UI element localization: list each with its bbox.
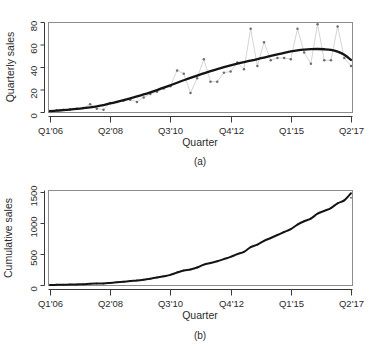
y-tick-label: 80: [28, 21, 39, 32]
data-point: [323, 59, 326, 62]
plot-frame-b: [49, 191, 353, 286]
y-tick-label: 0: [28, 286, 39, 291]
chart-b-svg: 050010001500 Cumulative sales Q1'06Q2'08…: [0, 173, 379, 346]
data-point: [102, 109, 105, 112]
data-point: [350, 65, 353, 68]
y-tick-label: 60: [28, 43, 39, 54]
y-tick-marks-b: [41, 193, 45, 286]
data-point: [276, 57, 279, 60]
y-tick-label: 1500: [28, 185, 39, 206]
x-tick-marks-b: [51, 290, 352, 296]
x-tick-labels-b: Q1'06Q2'08Q3'10Q4'12Q1'15Q2'17: [38, 298, 364, 309]
data-point: [223, 71, 226, 74]
data-point: [290, 58, 293, 61]
chart-b-x-axis: Q1'06Q2'08Q3'10Q4'12Q1'15Q2'17 Quarter: [38, 290, 364, 322]
data-point: [269, 59, 272, 62]
x-tick-label: Q3'10: [158, 298, 183, 309]
data-point: [89, 103, 92, 106]
data-point: [330, 59, 333, 62]
data-point: [209, 80, 212, 83]
x-tick-label: Q2'08: [98, 125, 123, 136]
x-tick-labels-a: Q1'06Q2'08Q3'10Q4'12Q1'15Q2'17: [38, 125, 364, 136]
data-point: [96, 107, 99, 110]
data-point: [256, 65, 259, 68]
data-point: [263, 41, 266, 44]
y-tick-labels-a: 020406080: [28, 21, 39, 119]
y-tick-marks-a: [41, 23, 45, 113]
data-point: [303, 51, 306, 54]
x-axis-title-b: Quarter: [182, 309, 218, 321]
panel-caption-a: (a): [194, 156, 206, 167]
observed-connector-line-a: [50, 24, 351, 111]
data-point: [249, 28, 252, 31]
data-point: [216, 80, 219, 83]
data-point: [310, 62, 313, 65]
chart-a-x-axis: Q1'06Q2'08Q3'10Q4'12Q1'15Q2'17 Quarter: [38, 117, 364, 149]
data-points-b: [49, 197, 352, 286]
data-point: [203, 58, 206, 61]
x-tick-label: Q1'15: [279, 298, 304, 309]
x-tick-marks-a: [51, 117, 352, 123]
data-point: [316, 23, 319, 26]
x-tick-label: Q2'17: [339, 298, 364, 309]
y-tick-labels-b: 050010001500: [28, 185, 39, 291]
x-tick-label: Q2'08: [98, 298, 123, 309]
y-axis-title-b: Cumulative sales: [2, 198, 14, 278]
data-point: [343, 57, 346, 60]
chart-a-y-axis: 020406080 Quarterly sales: [4, 21, 45, 119]
chart-b-plot-area: [49, 191, 353, 286]
fitted-trend-curve-a: [50, 49, 351, 111]
panel-b-cumulative-sales: 050010001500 Cumulative sales Q1'06Q2'08…: [0, 173, 379, 346]
x-tick-label: Q2'17: [339, 125, 364, 136]
chart-a-plot-area: [49, 23, 353, 113]
chart-a-svg: 020406080 Quarterly sales Q1'06Q2'08Q3'1…: [0, 0, 379, 173]
figure-container: 020406080 Quarterly sales Q1'06Q2'08Q3'1…: [0, 0, 379, 346]
x-tick-label: Q1'06: [38, 125, 63, 136]
data-point: [136, 101, 139, 104]
data-point: [350, 197, 352, 199]
data-point: [243, 68, 246, 71]
data-point: [336, 25, 339, 28]
x-tick-label: Q4'12: [219, 298, 244, 309]
y-tick-label: 1000: [28, 216, 39, 237]
y-tick-label: 0: [28, 113, 39, 118]
y-tick-label: 500: [28, 250, 39, 266]
data-point: [229, 70, 232, 73]
data-point: [176, 69, 179, 72]
data-point: [283, 57, 286, 60]
data-point: [196, 77, 199, 80]
data-point: [183, 73, 186, 76]
x-tick-label: Q1'06: [38, 298, 63, 309]
cumulative-curve-b: [50, 193, 351, 285]
x-tick-label: Q4'12: [219, 125, 244, 136]
panel-a-quarterly-sales: 020406080 Quarterly sales Q1'06Q2'08Q3'1…: [0, 0, 379, 173]
data-point: [189, 92, 192, 95]
data-point: [296, 28, 299, 31]
y-tick-label: 20: [28, 88, 39, 99]
y-tick-label: 40: [28, 66, 39, 77]
chart-b-y-axis: 050010001500 Cumulative sales: [2, 185, 45, 291]
x-tick-label: Q3'10: [158, 125, 183, 136]
y-axis-title-a: Quarterly sales: [4, 32, 16, 103]
data-point: [142, 96, 145, 99]
x-axis-title-a: Quarter: [182, 136, 218, 148]
panel-caption-b: (b): [194, 330, 206, 341]
x-tick-label: Q1'15: [279, 125, 304, 136]
